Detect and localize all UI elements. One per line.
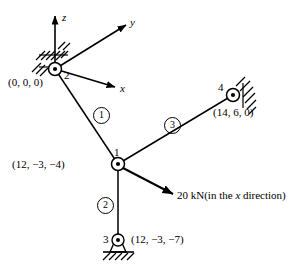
joint-node-3	[112, 234, 124, 246]
node-number-4: 4	[218, 82, 224, 93]
element-badge-3: 3	[164, 117, 181, 134]
load-direction-prefix: (in the	[204, 189, 235, 201]
node-number-3: 3	[103, 234, 109, 245]
joint-node-4	[227, 89, 240, 102]
joint-node-2	[49, 63, 62, 76]
node-coord-1: (12, −3, −4)	[12, 159, 65, 170]
axis-label-x: x	[120, 83, 125, 94]
load-magnitude: 20 kN	[177, 189, 204, 201]
load-arrow	[123, 168, 173, 194]
truss-drawing-canvas	[0, 0, 295, 272]
node-coord-2: (0, 0, 0)	[8, 77, 43, 88]
load-label: 20 kN(in the x direction)	[177, 190, 286, 201]
node-number-1: 1	[114, 147, 120, 158]
axis-label-z: z	[62, 12, 66, 23]
axis-label-y: y	[130, 17, 135, 28]
joint-node-1	[112, 158, 125, 171]
space-truss-figure: z y x 2 1 4 3 (0, 0, 0) (12, −3, −4) (14…	[0, 0, 295, 272]
element-badge-2: 2	[97, 197, 114, 214]
load-direction-suffix: direction)	[240, 189, 286, 201]
node-coord-3: (12, −3, −7)	[131, 234, 184, 245]
node-number-2: 2	[64, 70, 70, 81]
node-coord-4: (14, 6, 0)	[213, 107, 253, 118]
element-badge-1: 1	[93, 107, 110, 124]
